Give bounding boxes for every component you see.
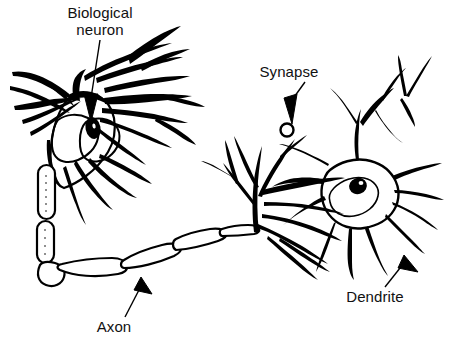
label-axon: Axon <box>82 318 146 335</box>
label-dendrite: Dendrite <box>332 288 418 305</box>
label-synapse: Synapse <box>246 63 332 80</box>
neuron-diagram-figure: Biological neuron Synapse Dendrite Axon <box>0 0 451 356</box>
label-biological-neuron: Biological neuron <box>52 4 148 38</box>
right-neuron-nucleolus <box>359 181 364 185</box>
synapse-bouton <box>281 124 294 137</box>
myelin-segment-2 <box>37 221 54 263</box>
